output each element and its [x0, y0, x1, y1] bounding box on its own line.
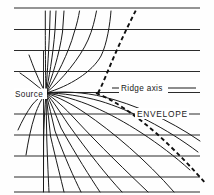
figure-container: Source Ridge axis ENVELOPE [0, 0, 214, 195]
ray-fan-envelope-diagram: Source Ridge axis ENVELOPE [0, 0, 214, 195]
ridge-axis-label: Ridge axis [121, 84, 163, 93]
source-label: Source [15, 90, 43, 99]
envelope-label-group: ENVELOPE [135, 108, 189, 119]
source-label-group: Source [14, 89, 47, 100]
ridge-axis-label-group: Ridge axis [119, 83, 168, 94]
envelope-label: ENVELOPE [137, 109, 188, 119]
